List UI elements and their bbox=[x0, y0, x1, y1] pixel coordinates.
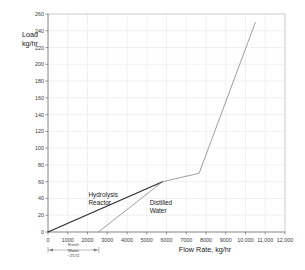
series-label-distilled-water: Distilled bbox=[150, 199, 173, 206]
fresh-water-annotation-text: Water bbox=[68, 248, 80, 253]
y-axis-tick-label: 60 bbox=[38, 179, 44, 185]
y-axis-tick-label: 120 bbox=[35, 128, 44, 134]
fresh-water-annotation-text: ~2572 bbox=[67, 253, 80, 258]
y-axis-tick-label: 100 bbox=[35, 145, 44, 151]
x-axis-tick-label: 5000 bbox=[141, 237, 153, 243]
x-axis-tick-label: 12,000 bbox=[277, 237, 294, 243]
x-axis-tick-label: 4000 bbox=[121, 237, 133, 243]
flow-rate-load-chart: 020406080100120140160180200220240260 010… bbox=[0, 0, 305, 270]
dimension-arrow-right-icon bbox=[94, 248, 98, 251]
y-axis-tick-label: 200 bbox=[35, 61, 44, 67]
y-axis-tick-label: 40 bbox=[38, 195, 44, 201]
y-axis-tick-label: 140 bbox=[35, 112, 44, 118]
y-axis-tick-label: 260 bbox=[35, 11, 44, 17]
x-axis-tick-label: 9000 bbox=[220, 237, 232, 243]
chart-container: 020406080100120140160180200220240260 010… bbox=[0, 0, 305, 270]
fresh-water-dimension: FreshWater~2572 bbox=[48, 242, 99, 258]
x-axis-tick-labels: 010002000300040005000600070008000900010,… bbox=[47, 237, 294, 243]
x-axis-tick-label: 2000 bbox=[82, 237, 94, 243]
y-axis-title-line1: Load bbox=[22, 30, 38, 39]
y-axis-tick-label: 0 bbox=[41, 229, 44, 235]
y-axis-tick-label: 80 bbox=[38, 162, 44, 168]
x-axis-tick-label: 3000 bbox=[101, 237, 113, 243]
dimension-arrow-left-icon bbox=[49, 248, 53, 251]
series-label-hydrolysis-reactor: Reactor bbox=[88, 199, 111, 206]
y-axis-tick-label: 180 bbox=[35, 78, 44, 84]
x-axis-tick-label: 7000 bbox=[180, 237, 192, 243]
x-axis-tick-label: 11,000 bbox=[257, 237, 273, 243]
x-axis-tick-label: 10,000 bbox=[237, 237, 254, 243]
x-axis-tick-label: 0 bbox=[47, 237, 50, 243]
series-label-distilled-water: Water bbox=[150, 207, 168, 214]
fresh-water-annotation-text: Fresh bbox=[68, 242, 80, 247]
series-label-hydrolysis-reactor: Hydrolysis bbox=[88, 191, 117, 199]
x-axis-tick-label: 8000 bbox=[200, 237, 212, 243]
x-axis-title: Flow Rate, kg/hr bbox=[179, 245, 232, 254]
y-axis-tick-label: 160 bbox=[35, 95, 44, 101]
x-axis-tick-label: 6000 bbox=[161, 237, 173, 243]
y-axis-title-line2: kg/hr bbox=[22, 39, 39, 48]
y-axis-tick-label: 20 bbox=[38, 212, 44, 218]
